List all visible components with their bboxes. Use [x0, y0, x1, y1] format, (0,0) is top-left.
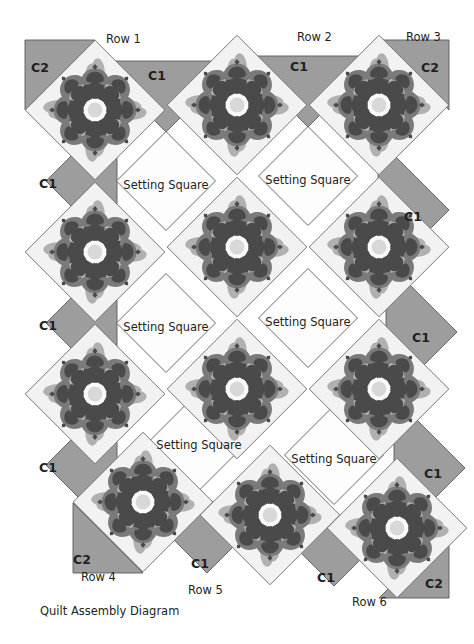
side-c1-top-2-label: C1 — [290, 59, 308, 74]
setting-square-3-label: Setting Square — [123, 320, 208, 334]
side-c1-left-3-label: C1 — [39, 460, 57, 475]
side-c1-right-1-label: C1 — [404, 209, 422, 224]
corner-c2-top-left-label: C2 — [31, 60, 49, 75]
row-label-row-1: Row 1 — [106, 32, 141, 46]
diagram-caption: Quilt Assembly Diagram — [40, 604, 179, 618]
row-label-row-3: Row 3 — [406, 30, 441, 44]
setting-square-5-label: Setting Square — [156, 438, 241, 452]
side-c1-right-2-label: C1 — [412, 330, 430, 345]
row-label-row-6: Row 6 — [352, 595, 387, 609]
row-label-row-4: Row 4 — [81, 570, 116, 584]
setting-square-2-label: Setting Square — [265, 173, 350, 187]
row-label-row-5: Row 5 — [188, 583, 223, 597]
side-c1-bottom-1-label: C1 — [191, 556, 209, 571]
side-c1-right-3-label: C1 — [424, 466, 442, 481]
setting-square-1-label: Setting Square — [123, 178, 208, 192]
side-c1-left-2-label: C1 — [39, 318, 57, 333]
corner-c2-top-right-label: C2 — [421, 60, 439, 75]
side-c1-left-1-label: C1 — [39, 176, 57, 191]
setting-square-4-label: Setting Square — [265, 315, 350, 329]
corner-c2-bottom-left-label: C2 — [73, 552, 91, 567]
setting-square-6-label: Setting Square — [291, 452, 376, 466]
quilt-assembly-diagram: Row 1Row 2Row 3Row 4Row 5Row 6C2C2C2C2C1… — [0, 0, 474, 644]
quilt-canvas — [0, 0, 474, 644]
row-label-row-2: Row 2 — [297, 30, 332, 44]
side-c1-bottom-2-label: C1 — [317, 570, 335, 585]
corner-c2-bottom-right-label: C2 — [425, 576, 443, 591]
side-c1-top-1-label: C1 — [148, 68, 166, 83]
